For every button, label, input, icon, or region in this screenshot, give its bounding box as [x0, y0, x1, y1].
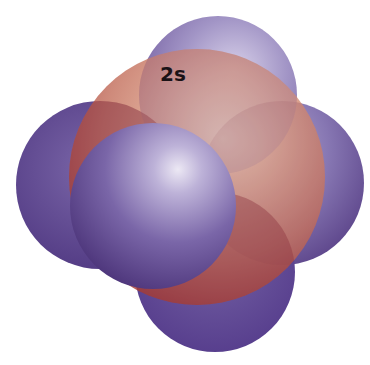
orbital-label-2s: 2s [160, 62, 186, 86]
front-lobe [70, 123, 236, 289]
orbital-diagram: 2s [0, 0, 370, 365]
orbital-diagram-svg [0, 0, 370, 365]
